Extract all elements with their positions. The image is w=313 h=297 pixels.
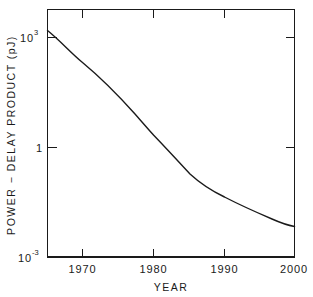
x-tick-label-1990: 1990 bbox=[210, 263, 238, 275]
y-tick-label-1: 1 bbox=[36, 142, 43, 154]
y-tick-label-1e3-group: 10 3 bbox=[20, 28, 38, 44]
chart-canvas: 10 3 1 10 -3 1970 1980 1990 2000 YEAR PO… bbox=[0, 0, 313, 297]
y-axis-ticks-right bbox=[286, 38, 295, 148]
y-axis-ticks-left bbox=[48, 38, 57, 148]
figure-container: 10 3 1 10 -3 1970 1980 1990 2000 YEAR PO… bbox=[0, 0, 313, 297]
power-delay-curve bbox=[48, 31, 295, 227]
x-axis-ticks-bottom bbox=[83, 249, 225, 257]
x-tick-label-1970: 1970 bbox=[68, 263, 96, 275]
plot-frame bbox=[48, 10, 295, 258]
x-tick-label-1980: 1980 bbox=[139, 263, 167, 275]
y-tick-label-1e-3-exponent: -3 bbox=[32, 248, 39, 257]
x-tick-label-2000: 2000 bbox=[280, 263, 308, 275]
y-tick-label-1e3-exponent: 3 bbox=[34, 28, 38, 37]
y-tick-label-1e3-mantissa: 10 bbox=[20, 32, 34, 44]
x-axis-title: YEAR bbox=[154, 281, 189, 293]
y-tick-label-1e-3-mantissa: 10 bbox=[18, 252, 32, 264]
y-tick-label-1e-3-group: 10 -3 bbox=[18, 248, 39, 264]
y-axis-title: POWER − DELAY PRODUCT (pJ) bbox=[5, 35, 17, 235]
x-axis-ticks-top bbox=[83, 10, 225, 18]
